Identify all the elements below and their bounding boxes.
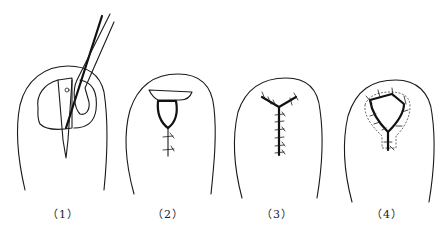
panel-label-4: （4） — [367, 205, 407, 221]
illustration-canvas — [0, 0, 442, 231]
panel-3-drawing — [235, 78, 323, 198]
scalpel-blade — [66, 16, 102, 128]
panel-2-drawing — [126, 74, 215, 194]
panel-4-drawing — [345, 80, 435, 202]
retractor-instrument — [74, 14, 114, 114]
finger-outline-4 — [345, 80, 435, 202]
y-closure-3 — [262, 97, 296, 155]
nail-bed-1 — [38, 78, 72, 129]
nail-fold-2 — [149, 90, 192, 100]
panel-label-2: （2） — [148, 205, 188, 221]
panel-label-1: （1） — [43, 205, 83, 221]
excision-cup-2 — [158, 101, 177, 128]
nail-fold-detail — [65, 88, 69, 92]
panel-1-drawing — [18, 14, 114, 190]
panel-label-3: （3） — [257, 205, 297, 221]
figure-stage: （1） （2） （3） （4） — [0, 0, 442, 231]
